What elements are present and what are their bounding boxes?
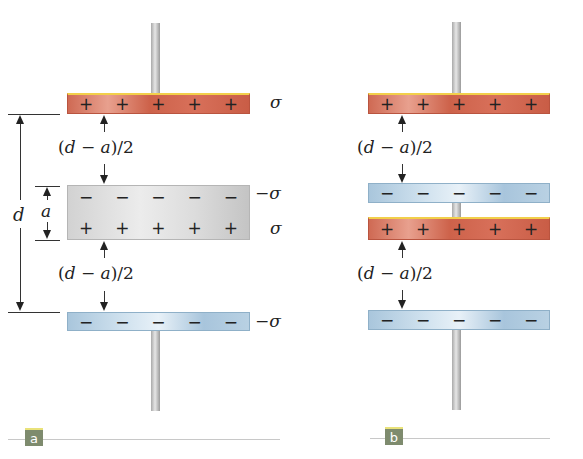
gap-label-bottom-b: (d − a)/2 — [357, 263, 433, 283]
dielectric-slab: − − − − − + + + + + — [67, 185, 250, 240]
connecting-rod-b — [452, 203, 461, 217]
gap-arrow-down-icon-1a — [100, 175, 108, 184]
d-dimension-line-upper — [20, 118, 21, 200]
sigma-label-slab: σ — [270, 218, 282, 238]
d-arrow-up-icon — [16, 115, 24, 124]
d-arrow-down-icon — [16, 302, 24, 311]
bottom-rod-b — [452, 330, 461, 410]
bottom-negative-plate-b: − − − − − — [368, 310, 550, 330]
top-positive-plate-a: + + + + + — [67, 93, 250, 114]
gap-arrow-up-icon-1a — [100, 115, 108, 124]
top-positive-plate-b: + + + + + — [368, 93, 550, 114]
sigma-label-top-a: σ — [270, 92, 282, 112]
gap-arrow-down-icon-1b — [398, 174, 406, 183]
middle-negative-plate-b: − − − − − — [368, 183, 550, 203]
a-dimension-bottom-tick — [35, 240, 60, 241]
gap-label-top-b: (d − a)/2 — [357, 137, 433, 157]
gap-arrow-up-icon-2b — [398, 241, 406, 250]
bottom-rod-a — [151, 331, 160, 411]
neg-sigma-label-bottom-a: −σ — [255, 311, 281, 331]
gap-label-top-a: (d − a)/2 — [58, 137, 134, 157]
panel-label-b: b — [385, 427, 403, 445]
d-dimension-label: d — [13, 204, 25, 225]
d-dimension-line-lower — [20, 228, 21, 308]
a-dimension-label: a — [41, 201, 51, 221]
caption-rule-a — [8, 439, 280, 440]
top-rod-b — [452, 22, 461, 94]
middle-positive-plate-b: + + + + + — [368, 217, 550, 240]
neg-sigma-label-slab: −σ — [255, 183, 281, 203]
a-arrow-down-icon — [43, 230, 51, 239]
gap-arrow-down-icon-2a — [100, 302, 108, 311]
top-rod-a — [151, 23, 160, 94]
panel-label-a: a — [25, 428, 43, 446]
gap-label-bottom-a: (d − a)/2 — [58, 263, 134, 283]
gap-arrow-up-icon-2a — [100, 241, 108, 250]
gap-arrow-up-icon-1b — [398, 115, 406, 124]
d-dimension-bottom-tick — [8, 312, 60, 313]
gap-arrow-down-icon-2b — [398, 300, 406, 309]
bottom-negative-plate-a: − − − − − — [67, 312, 250, 331]
a-arrow-up-icon — [43, 187, 51, 196]
